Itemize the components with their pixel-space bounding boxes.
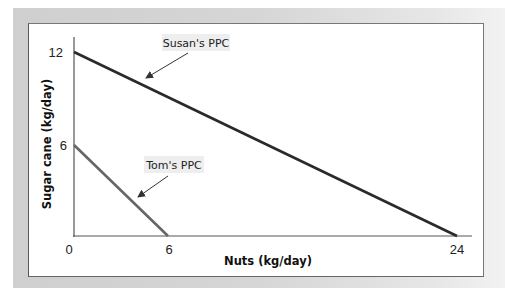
y-tick-6: 6 [60, 138, 67, 153]
y-axis-title: Sugar cane (kg/day) [40, 79, 54, 209]
y-tick-12: 12 [49, 45, 63, 60]
susan-ppc-line [74, 52, 457, 236]
tom-callout-label: Tom's PPC [145, 159, 202, 172]
x-tick-0: 0 [65, 242, 72, 257]
ppc-chart: 12 6 0 6 24 Nuts (kg/day) Sugar cane (kg… [0, 0, 505, 296]
tom-callout-arrow-icon [138, 176, 168, 197]
x-axis-title: Nuts (kg/day) [224, 254, 312, 268]
x-tick-6: 6 [165, 242, 172, 257]
susan-callout-label: Susan's PPC [163, 37, 230, 50]
x-tick-24: 24 [450, 242, 464, 257]
susan-callout-arrow-icon [146, 53, 188, 78]
